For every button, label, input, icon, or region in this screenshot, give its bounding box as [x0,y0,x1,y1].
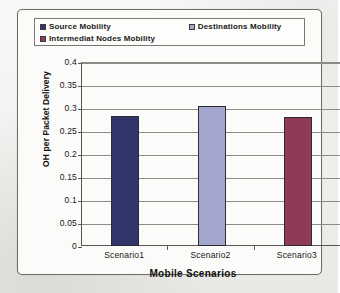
legend-label-intermediate: Intermediat Nodes Mobility [49,34,155,43]
y-axis-tick-mark [78,201,82,202]
legend-swatch-intermediate-icon [40,36,46,42]
x-axis-tick-label-2: Scenario2 [167,250,253,260]
gridline [82,86,340,87]
x-axis-tick-label-1: Scenario1 [81,250,167,260]
legend-label-source: Source Mobility [49,22,111,31]
y-axis-tick-label: 0.1 [33,195,77,205]
y-axis-tick-labels: 0.40.350.30.250.20.150.10.050 [30,62,77,246]
y-axis-tick-label: 0.05 [33,218,77,228]
x-axis-tick-labels: Scenario1Scenario2Scenario3 [81,250,340,260]
legend-entry-destinations: Destinations Mobility [189,22,282,31]
legend-swatch-destinations-icon [189,24,195,30]
y-axis-tick-mark [78,178,82,179]
y-axis-tick-label: 0.4 [33,57,77,67]
legend-swatch-source-icon [40,24,46,30]
y-axis-tick-mark [78,132,82,133]
legend-label-destinations: Destinations Mobility [198,22,282,31]
bar-scenario1 [111,116,139,246]
y-axis-tick-mark [78,155,82,156]
gridline [82,63,340,64]
legend-row-bottom: Intermediat Nodes Mobility [40,33,304,44]
y-axis-tick-label: 0.2 [33,149,77,159]
bar-scenario3 [284,117,312,246]
x-axis-tick-label-3: Scenario3 [254,250,340,260]
x-axis-title: Mobile Scenarios [58,268,328,279]
chart-legend: Source Mobility Destinations Mobility In… [34,18,305,46]
y-axis-tick-label: 0 [33,241,77,251]
y-axis-tick-mark [78,224,82,225]
y-axis-tick-label: 0.25 [33,126,77,136]
y-axis-tick-mark [78,63,82,64]
legend-row-top: Source Mobility Destinations Mobility [40,21,304,32]
chart-frame: Source Mobility Destinations Mobility In… [17,9,322,275]
plot-area [81,62,340,246]
bar-scenario2 [198,106,226,246]
y-axis-tick-mark [78,86,82,87]
y-axis-tick-mark [78,109,82,110]
y-axis-tick-label: 0.3 [33,103,77,113]
y-axis-tick-label: 0.15 [33,172,77,182]
y-axis-tick-label: 0.35 [33,80,77,90]
legend-entry-intermediate: Intermediat Nodes Mobility [40,34,155,43]
legend-entry-source: Source Mobility [40,22,111,31]
